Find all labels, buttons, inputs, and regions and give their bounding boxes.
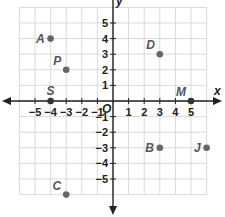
- x-tick-label: −5: [29, 106, 42, 118]
- x-tick-label: 2: [141, 106, 147, 118]
- y-tick-label: −3: [95, 142, 108, 154]
- y-tick-label: 1: [102, 79, 108, 91]
- point-label-a: A: [35, 32, 45, 46]
- coordinate-plane: xyO−5−4−3−2−11234554321−1−2−3−4−5APSDMBJ…: [0, 0, 225, 217]
- x-axis-label: x: [213, 84, 222, 98]
- point-m: [188, 98, 195, 105]
- point-c: [63, 191, 70, 198]
- point-b: [157, 145, 164, 152]
- point-label-d: D: [146, 38, 155, 52]
- y-tick-label: 5: [102, 17, 108, 29]
- point-label-m: M: [176, 85, 187, 99]
- x-axis-right-arrow-icon: [213, 97, 222, 105]
- point-j: [203, 145, 210, 152]
- point-label-j: J: [194, 141, 201, 155]
- x-tick-label: 1: [126, 106, 132, 118]
- point-a: [47, 35, 54, 42]
- point-d: [157, 51, 164, 58]
- y-axis-label: y: [115, 0, 124, 8]
- x-tick-label: −3: [60, 106, 73, 118]
- y-axis-down-arrow-icon: [109, 206, 117, 215]
- x-tick-label: 3: [157, 106, 163, 118]
- point-label-p: P: [53, 54, 62, 68]
- y-tick-label: −1: [95, 111, 108, 123]
- x-tick-label: −4: [44, 106, 57, 118]
- point-s: [47, 98, 54, 105]
- point-label-s: S: [47, 84, 55, 98]
- x-tick-label: 4: [172, 106, 179, 118]
- y-tick-label: 4: [102, 33, 109, 45]
- y-tick-label: 3: [102, 48, 108, 60]
- y-tick-label: −5: [95, 173, 108, 185]
- y-tick-label: 2: [102, 64, 108, 76]
- x-tick-label: −2: [76, 106, 89, 118]
- x-axis-left-arrow-icon: [2, 97, 11, 105]
- y-tick-label: −4: [95, 157, 108, 169]
- y-tick-label: −2: [95, 126, 108, 138]
- point-label-c: C: [53, 179, 62, 193]
- point-label-b: B: [145, 141, 154, 155]
- point-p: [63, 67, 70, 74]
- x-tick-label: 5: [188, 106, 194, 118]
